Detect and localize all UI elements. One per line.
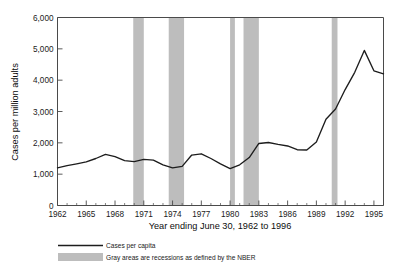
chart-legend: Cases per capita Gray areas are recessio… <box>58 242 256 262</box>
recession-band <box>169 18 184 206</box>
y-tick-label: 6,000 <box>33 14 54 23</box>
x-tick-label: 1980 <box>221 210 240 219</box>
x-tick-label: 1962 <box>48 210 67 219</box>
y-tick-label: 3,000 <box>33 108 54 117</box>
x-tick-label: 1992 <box>336 210 355 219</box>
y-tick-label: 1,000 <box>33 170 54 179</box>
x-axis-tick-labels: 1962196519681971197419771980198319861989… <box>48 210 383 219</box>
y-tick-label: 2,000 <box>33 139 54 148</box>
legend-label-recessions: Gray areas are recessions as defined by … <box>106 254 256 262</box>
recession-band <box>133 18 144 206</box>
x-tick-label: 1968 <box>106 210 125 219</box>
x-tick-label: 1989 <box>307 210 326 219</box>
y-tick-label: 5,000 <box>33 45 54 54</box>
x-tick-label: 1977 <box>192 210 211 219</box>
x-tick-label: 1971 <box>135 210 154 219</box>
x-tick-label: 1983 <box>250 210 269 219</box>
x-axis-title: Year ending June 30, 1962 to 1996 <box>149 221 292 231</box>
recession-band <box>244 18 259 206</box>
recession-bands-group <box>133 18 337 206</box>
x-tick-label: 1986 <box>279 210 298 219</box>
x-axis-ticks <box>58 201 374 206</box>
y-tick-label: 4,000 <box>33 76 54 85</box>
x-tick-label: 1995 <box>365 210 384 219</box>
legend-label-cases-per-capita: Cases per capita <box>106 242 156 250</box>
chart-figure: 01,0002,0003,0004,0005,0006,000 19621965… <box>0 0 409 274</box>
y-axis-ticks <box>58 18 63 206</box>
x-tick-label: 1974 <box>163 210 182 219</box>
y-axis-title: Cases per million adults <box>10 63 20 161</box>
recession-band <box>230 18 235 206</box>
line-chart: 01,0002,0003,0004,0005,0006,000 19621965… <box>0 0 409 274</box>
x-tick-label: 1965 <box>77 210 96 219</box>
y-axis-tick-labels: 01,0002,0003,0004,0005,0006,000 <box>33 14 54 211</box>
legend-swatch-recession <box>58 253 103 261</box>
